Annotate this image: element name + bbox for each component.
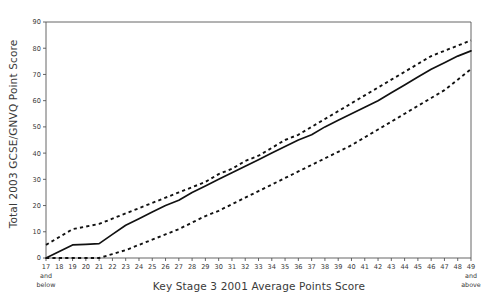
y-axis-tick-label: 60 [33,97,41,105]
x-axis-tick-label: 33 [254,263,262,271]
y-axis-tick-label: 70 [33,71,41,79]
x-axis-tick-label: 36 [294,263,302,271]
x-axis-tick-label: 29 [201,263,209,271]
line-chart-plot: 010203040506070809017andbelow18192021222… [0,0,492,305]
y-axis-tick-label: 0 [37,254,41,262]
y-axis-tick-label: 50 [33,123,41,131]
x-axis-tick-label: 24 [135,263,143,271]
x-axis-tick-sublabel: and [40,272,52,280]
x-axis-tick-label: 45 [414,263,422,271]
x-axis-tick-label: 23 [121,263,129,271]
x-axis-tick-label: 31 [228,263,236,271]
x-axis-tick-label: 18 [55,263,63,271]
chart-container: Total 2003 GCSE/GNVQ Point Score 0102030… [0,0,492,305]
x-axis-tick-label: 46 [427,263,435,271]
x-axis-tick-label: 38 [321,263,329,271]
x-axis-tick-label: 19 [68,263,76,271]
x-axis-tick-label: 49 [467,263,475,271]
x-axis-tick-label: 28 [188,263,196,271]
x-axis-tick-label: 37 [307,263,315,271]
x-axis-tick-label: 30 [214,263,222,271]
x-axis-tick-label: 32 [241,263,249,271]
x-axis-tick-label: 25 [148,263,156,271]
x-axis-tick-label: 20 [82,263,90,271]
y-axis-tick-label: 80 [33,45,41,53]
x-axis-tick-label: 21 [95,263,103,271]
x-axis-tick-label: 42 [374,263,382,271]
plot-frame [46,22,471,258]
y-axis-tick-label: 30 [33,176,41,184]
x-axis-tick-label: 40 [347,263,355,271]
x-axis-tick-label: 48 [454,263,462,271]
x-axis-title: Key Stage 3 2001 Average Points Score [46,280,472,292]
x-axis-tick-label: 39 [334,263,342,271]
x-axis-tick-label: 35 [281,263,289,271]
series-line-0 [46,40,471,245]
x-axis-tick-label: 44 [400,263,408,271]
x-axis-tick-label: 17 [42,263,50,271]
x-axis-tick-label: 26 [161,263,169,271]
y-axis-tick-label: 10 [33,228,41,236]
series-line-2 [46,69,471,258]
x-axis-tick-sublabel: and [465,272,477,280]
x-axis-tick-label: 43 [387,263,395,271]
x-axis-tick-label: 41 [361,263,369,271]
x-axis-tick-label: 27 [175,263,183,271]
y-axis-tick-label: 40 [33,150,41,158]
y-axis-tick-label: 20 [33,202,41,210]
x-axis-tick-label: 34 [268,263,276,271]
x-axis-tick-label: 47 [440,263,448,271]
x-axis-tick-label: 22 [108,263,116,271]
series-line-1 [46,51,471,258]
y-axis-tick-label: 90 [33,18,41,26]
